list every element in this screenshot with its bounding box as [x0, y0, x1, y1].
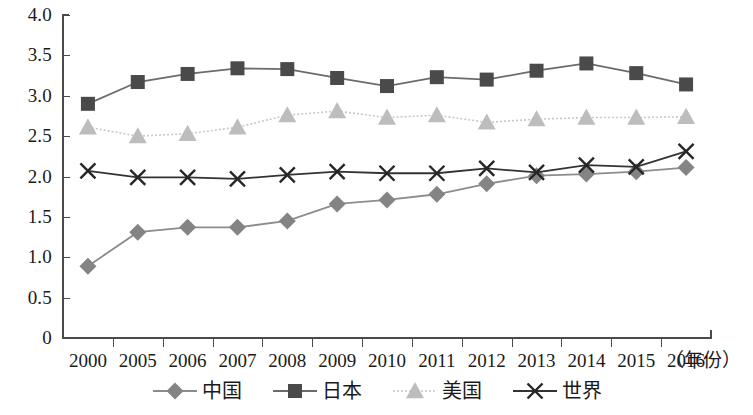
data-point-marker [81, 97, 95, 111]
x-axis-title: （年份） [665, 351, 741, 371]
y-axis-tick [62, 217, 70, 218]
data-point-marker [677, 108, 695, 124]
data-point-marker [529, 165, 544, 180]
y-axis-tick-label: 3.0 [6, 86, 52, 105]
legend-item-world[interactable]: 世界 [512, 380, 602, 402]
x-axis-tick-label: 2013 [512, 351, 562, 371]
data-point-marker [130, 170, 145, 185]
data-point-marker [280, 167, 295, 182]
data-point-marker [479, 161, 494, 176]
legend-item-china[interactable]: 中国 [152, 380, 242, 402]
x-axis-tick-label: 2010 [362, 351, 412, 371]
data-point-marker [577, 109, 595, 125]
y-axis-tick [62, 55, 70, 56]
triangle-marker-icon [392, 380, 438, 402]
y-axis-tick [62, 177, 70, 178]
data-point-marker [329, 195, 346, 212]
y-axis-tick-label: 1.5 [6, 207, 52, 226]
data-point-marker [129, 224, 146, 241]
legend-item-label: 美国 [442, 380, 482, 402]
data-point-marker [230, 61, 244, 75]
data-point-marker [430, 70, 444, 84]
data-point-marker [79, 258, 96, 275]
series-line [88, 111, 686, 136]
data-point-marker [379, 191, 396, 208]
data-point-marker [629, 66, 643, 80]
data-point-marker [80, 163, 95, 178]
data-point-marker [627, 109, 645, 125]
data-point-marker [180, 170, 195, 185]
x-axis-tick [362, 339, 363, 347]
chart-legend: 中国日本美国世界 [0, 380, 753, 402]
series-line [88, 151, 686, 178]
data-point-marker [279, 212, 296, 229]
legend-item-label: 日本 [322, 380, 362, 402]
x-axis-tick-label: 2006 [163, 351, 213, 371]
x-axis-tick-label: 2011 [412, 351, 462, 371]
data-point-marker [528, 110, 546, 126]
y-axis-tick-label: 2.5 [6, 126, 52, 145]
data-point-marker [131, 75, 145, 89]
data-point-marker [179, 219, 196, 236]
data-point-marker [378, 109, 396, 125]
data-point-marker [380, 166, 395, 181]
x-axis-tick-label: 2000 [63, 351, 113, 371]
data-point-marker [280, 62, 294, 76]
legend-item-label: 世界 [562, 380, 602, 402]
x-axis-tick [262, 339, 263, 347]
x-axis-tick [661, 339, 662, 347]
data-point-marker [478, 175, 495, 192]
data-point-marker [429, 166, 444, 181]
y-axis-tick-label: 0.5 [6, 288, 52, 307]
legend-item-usa[interactable]: 美国 [392, 380, 482, 402]
data-point-marker [278, 106, 296, 122]
series-line [88, 168, 686, 267]
x-axis-tick [561, 339, 562, 347]
data-point-marker [629, 159, 644, 174]
y-axis-tick-label: 0 [6, 328, 52, 347]
data-point-marker [129, 127, 147, 143]
x-axis-tick-label: 2008 [262, 351, 312, 371]
data-point-marker [380, 79, 394, 93]
x-axis-tick-label: 2005 [113, 351, 163, 371]
data-point-marker [478, 113, 496, 129]
x-axis-tick [213, 339, 214, 347]
data-point-marker [578, 166, 595, 183]
x-axis-tick-label: 2009 [312, 351, 362, 371]
y-axis-tick [62, 257, 70, 258]
legend-item-label: 中国 [202, 380, 242, 402]
x-axis-tick [512, 339, 513, 347]
data-point-marker [79, 118, 97, 134]
data-point-marker [679, 144, 694, 159]
data-point-marker [330, 71, 344, 85]
legend-item-japan[interactable]: 日本 [272, 380, 362, 402]
x-axis-tick [412, 339, 413, 347]
y-axis-tick-label: 1.0 [6, 247, 52, 266]
line-chart: 4.03.53.02.52.01.51.00.50 20002005200620… [0, 0, 753, 415]
data-point-marker [530, 64, 544, 78]
x-axis-tick [312, 339, 313, 347]
data-point-marker [230, 171, 245, 186]
series-diamond [79, 159, 694, 275]
data-point-marker [579, 158, 594, 173]
data-point-marker [679, 77, 693, 91]
y-axis-tick [62, 96, 70, 97]
data-point-marker [179, 125, 197, 141]
data-point-marker [628, 163, 645, 180]
x-axis-right-cap [710, 330, 712, 339]
x-axis-tick-label: 2015 [611, 351, 661, 371]
x-axis-tick [462, 339, 463, 347]
x-axis-tick [611, 339, 612, 347]
series-triangle [79, 102, 695, 143]
diamond-marker-icon [152, 380, 198, 402]
x-axis-tick [163, 339, 164, 347]
data-point-marker [330, 164, 345, 179]
x-axis-tick [113, 339, 114, 347]
series-square [81, 56, 693, 110]
series-line [88, 63, 686, 103]
y-axis-tick [62, 298, 70, 299]
data-point-marker [480, 73, 494, 87]
cross-marker-icon [512, 380, 558, 402]
x-axis-line [62, 337, 712, 339]
x-axis-tick-label: 2014 [561, 351, 611, 371]
